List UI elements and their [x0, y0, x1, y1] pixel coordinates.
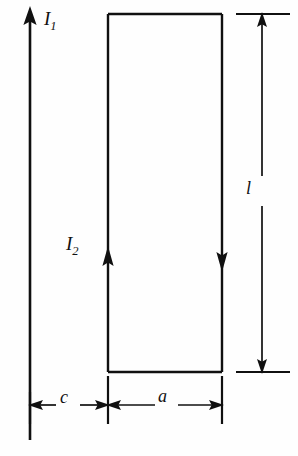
label-current-i2-subscript: 2 [72, 244, 78, 258]
figure-canvas: I1 I2 l c a [0, 0, 298, 456]
label-length-l: l [246, 178, 251, 199]
label-current-i1-subscript: 1 [50, 19, 56, 33]
dimension-l [257, 12, 267, 374]
physics-diagram-svg [0, 0, 298, 456]
label-distance-c: c [60, 387, 68, 408]
wire-i1 [23, 6, 36, 440]
label-width-a: a [158, 386, 167, 407]
current-loop-rectangle [108, 14, 222, 372]
label-current-i2: I2 [66, 233, 79, 259]
dimension-c [28, 400, 110, 410]
label-current-i1: I1 [44, 8, 57, 34]
